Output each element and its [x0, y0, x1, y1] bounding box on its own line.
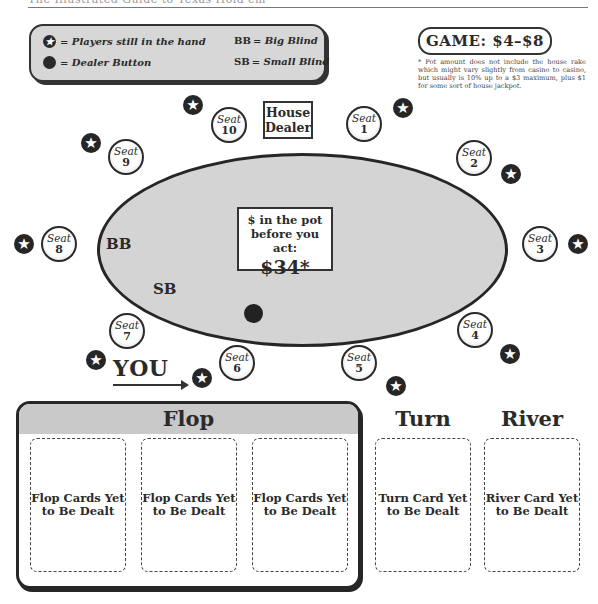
seat-number: 8 — [55, 244, 63, 255]
turn-title: Turn — [375, 406, 471, 431]
page-header-text: The Illustrated Guide to Texas Hold'em — [28, 0, 266, 6]
pot-amount: $34* — [239, 256, 331, 278]
legend-box: ★ = Players still in the hand = Dealer B… — [29, 24, 326, 82]
flop-title: Flop — [19, 404, 358, 434]
big-blind-label: BB — [106, 235, 131, 253]
header-divider — [28, 7, 588, 8]
river-title: River — [484, 406, 580, 431]
star-icon: ★ — [43, 35, 56, 48]
seat-9[interactable]: Seat 9 — [108, 139, 144, 175]
seat-5[interactable]: Seat 5 — [341, 345, 377, 381]
flop-card-1: Flop Cards Yet to Be Dealt — [30, 438, 126, 572]
pot-footnote: * Pot amount does not include the house … — [418, 58, 586, 90]
seat-number: 10 — [221, 125, 236, 136]
flop-section: Flop Flop Cards Yet to Be Dealt Flop Car… — [16, 401, 361, 589]
pot-label: $ in the pot before you act: — [239, 213, 331, 255]
star-icon: ★ — [14, 234, 34, 254]
legend-players: ★ = Players still in the hand — [43, 35, 206, 48]
seat-number: 3 — [536, 244, 544, 255]
legend-bb: BB = Big Blind — [234, 35, 318, 46]
seat-8[interactable]: Seat 8 — [41, 226, 77, 262]
star-icon: ★ — [183, 95, 203, 115]
star-icon: ★ — [500, 344, 520, 364]
star-icon: ★ — [192, 368, 212, 388]
star-icon: ★ — [81, 133, 101, 153]
seat-3[interactable]: Seat 3 — [522, 226, 558, 262]
seat-number: 4 — [471, 330, 479, 341]
legend-sb: SB = Small Blind — [234, 56, 329, 67]
seat-number: 7 — [123, 331, 131, 342]
seat-6[interactable]: Seat 6 — [219, 345, 255, 381]
seat-2[interactable]: Seat 2 — [456, 140, 492, 176]
seat-4[interactable]: Seat 4 — [457, 312, 493, 348]
seat-number: 6 — [233, 363, 241, 374]
flop-card-3: Flop Cards Yet to Be Dealt — [252, 438, 348, 572]
star-icon: ★ — [393, 98, 413, 118]
legend-sb-text: = Small Blind — [252, 56, 330, 67]
house-dealer-box: House Dealer — [263, 101, 313, 139]
seat-number: 9 — [122, 157, 130, 168]
small-blind-label: SB — [153, 280, 177, 298]
seat-1[interactable]: Seat 1 — [346, 106, 382, 142]
legend-dealer-text: = Dealer Button — [60, 57, 151, 68]
star-icon: ★ — [386, 376, 406, 396]
turn-card: Turn Card Yet to Be Dealt — [375, 438, 471, 572]
star-icon: ★ — [501, 164, 521, 184]
seat-number: 2 — [470, 158, 478, 169]
dealer-button-icon — [43, 56, 56, 69]
seat-10[interactable]: Seat 10 — [211, 107, 247, 143]
star-icon: ★ — [86, 350, 106, 370]
game-stakes-badge: GAME: $4–$8 — [418, 27, 552, 55]
dealer-button-icon — [244, 304, 263, 323]
legend-sb-key: SB — [234, 56, 250, 67]
flop-card-2: Flop Cards Yet to Be Dealt — [141, 438, 237, 572]
seat-number: 5 — [355, 363, 363, 374]
legend-bb-key: BB — [234, 35, 251, 46]
star-icon: ★ — [568, 234, 588, 254]
pot-box: $ in the pot before you act: $34* — [237, 207, 333, 271]
legend-players-text: = Players still in the hand — [60, 36, 206, 47]
seat-7[interactable]: Seat 7 — [109, 313, 145, 349]
seat-number: 1 — [360, 124, 368, 135]
legend-dealer: = Dealer Button — [43, 56, 151, 69]
river-card: River Card Yet to Be Dealt — [484, 438, 580, 572]
legend-bb-text: = Big Blind — [253, 35, 318, 46]
you-label: YOU — [113, 355, 169, 381]
you-arrow-icon — [113, 384, 183, 386]
